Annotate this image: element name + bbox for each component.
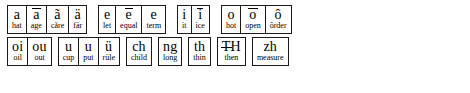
example-word: measure bbox=[257, 53, 284, 63]
phonetic-symbol: o bbox=[248, 7, 257, 22]
barred-t-icon: T bbox=[222, 39, 231, 54]
pronunciation-key-sheet: ahataageãcãreäfäreleteequaletermiitiiceo… bbox=[0, 0, 470, 93]
example-word: child bbox=[131, 53, 147, 63]
phonetic-symbol: u bbox=[65, 39, 72, 54]
key-group: ucupuputürüle bbox=[58, 37, 120, 66]
phonetic-symbol: a bbox=[32, 7, 40, 22]
pronunciation-key-cell: ãcãre bbox=[46, 6, 68, 33]
example-word: oil bbox=[13, 53, 21, 63]
example-word: then bbox=[224, 53, 238, 63]
pronunciation-key-row-1: ahataageãcãreäfäreleteequaletermiitiiceo… bbox=[0, 0, 470, 34]
pronunciation-key-cell: oopen bbox=[240, 6, 265, 33]
pronunciation-key-cell: ucup bbox=[59, 38, 79, 65]
example-word: it bbox=[182, 21, 186, 31]
phonetic-symbol: ã bbox=[54, 7, 60, 22]
key-group: ohotoopenôôrder bbox=[221, 5, 292, 34]
pronunciation-key-cell: ürüle bbox=[98, 38, 119, 65]
macron-icon: e bbox=[125, 7, 133, 22]
phonetic-symbol: e bbox=[151, 7, 157, 22]
key-group: ahataageãcãreäfär bbox=[7, 5, 87, 34]
example-word: cãre bbox=[51, 21, 64, 31]
phonetic-symbol: oi bbox=[12, 39, 23, 54]
phonetic-symbol: u bbox=[85, 39, 92, 54]
phonetic-symbol: ä bbox=[74, 7, 80, 22]
example-word: hot bbox=[226, 21, 236, 31]
pronunciation-key-cell: iice bbox=[191, 6, 209, 33]
example-word: term bbox=[146, 21, 161, 31]
phonetic-symbol: e bbox=[125, 7, 133, 22]
phonetic-symbol: TH bbox=[222, 39, 241, 54]
pronunciation-key-cell: chchild bbox=[127, 38, 151, 65]
phonetic-symbol: o bbox=[227, 7, 234, 22]
phonetic-symbol: ch bbox=[132, 39, 146, 54]
example-word: thin bbox=[193, 53, 205, 63]
pronunciation-key-cell: oioil bbox=[8, 38, 27, 65]
example-word: equal bbox=[120, 21, 137, 31]
phonetic-symbol: ô bbox=[275, 7, 282, 22]
pronunciation-key-cell: äfär bbox=[68, 6, 86, 33]
phonetic-symbol: ou bbox=[32, 39, 46, 54]
pronunciation-key-cell: ththin bbox=[189, 38, 209, 65]
example-word: age bbox=[31, 21, 42, 31]
phonetic-symbol: ü bbox=[105, 39, 112, 54]
key-group: iitiice bbox=[177, 5, 210, 34]
phonetic-symbol: th bbox=[194, 39, 205, 54]
pronunciation-key-cell: aage bbox=[26, 6, 46, 33]
pronunciation-key-row-2: oioilououtucupuputürülechchildnglongthth… bbox=[0, 34, 470, 66]
pronunciation-key-cell: ohot bbox=[222, 6, 240, 33]
phonetic-symbol: zh bbox=[263, 39, 277, 54]
key-group: oioilouout bbox=[7, 37, 52, 66]
key-group: chchild bbox=[126, 37, 152, 66]
pronunciation-key-cell: iit bbox=[178, 6, 190, 33]
pronunciation-key-cell: ahat bbox=[8, 6, 26, 33]
pronunciation-key-cell: eequal bbox=[115, 6, 141, 33]
key-group: zhmeasure bbox=[252, 37, 289, 66]
phonetic-symbol: i bbox=[182, 7, 186, 22]
phonetic-symbol: a bbox=[14, 7, 20, 22]
macron-icon: i bbox=[197, 7, 203, 22]
pronunciation-key-cell: eterm bbox=[141, 6, 165, 33]
example-word: fär bbox=[73, 21, 82, 31]
example-word: ice bbox=[196, 21, 205, 31]
key-group: THthen bbox=[217, 37, 246, 66]
example-word: open bbox=[245, 21, 261, 31]
phonetic-symbol: ng bbox=[163, 39, 177, 54]
key-group: ththin bbox=[188, 37, 210, 66]
pronunciation-key-cell: ôôrder bbox=[265, 6, 291, 33]
key-group: eleteequaleterm bbox=[98, 5, 166, 34]
pronunciation-key-cell: uput bbox=[78, 38, 97, 65]
example-word: out bbox=[34, 53, 44, 63]
phonetic-symbol: e bbox=[104, 7, 110, 22]
pronunciation-key-cell: elet bbox=[99, 6, 115, 33]
example-word: cup bbox=[63, 53, 75, 63]
example-word: hat bbox=[12, 21, 22, 31]
example-word: ôrder bbox=[270, 21, 287, 31]
macron-icon: o bbox=[248, 7, 257, 22]
pronunciation-key-cell: nglong bbox=[159, 38, 181, 65]
example-word: rüle bbox=[103, 53, 115, 63]
pronunciation-key-cell: THthen bbox=[218, 38, 245, 65]
pronunciation-key-cell: ouout bbox=[27, 38, 50, 65]
example-word: long bbox=[163, 53, 177, 63]
pronunciation-key-cell: zhmeasure bbox=[253, 38, 288, 65]
phonetic-symbol: i bbox=[197, 7, 203, 22]
example-word: let bbox=[103, 21, 111, 31]
macron-icon: a bbox=[32, 7, 40, 22]
example-word: put bbox=[83, 53, 93, 63]
key-group: nglong bbox=[158, 37, 182, 66]
